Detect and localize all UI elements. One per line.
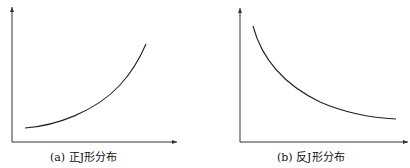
panel-a bbox=[12, 7, 177, 142]
panel-a-curve bbox=[25, 44, 146, 128]
panel-b bbox=[240, 8, 408, 142]
panel-a-caption: (a) 正J形分布 bbox=[50, 148, 117, 164]
panel-b-curve bbox=[253, 26, 396, 119]
panel-b-caption: (b) 反J形分布 bbox=[277, 148, 345, 164]
figure-canvas bbox=[0, 0, 410, 168]
